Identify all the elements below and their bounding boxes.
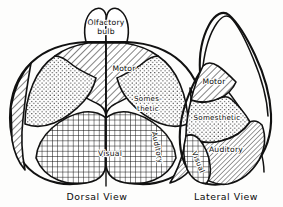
dorsal-label-somesthetic-line2: thetic	[137, 104, 159, 113]
lateral-label-motor: Motor	[202, 77, 226, 86]
lateral-label-auditory: Auditory	[209, 145, 243, 154]
brain-diagram-canvas: Olfactory bulb Motor Somes- thetic Visua…	[0, 0, 283, 207]
dorsal-label-olfactory-bulb-line1: Olfactory	[87, 18, 124, 27]
dorsal-label-olfactory-bulb-line2: bulb	[97, 27, 115, 36]
dorsal-label-visual: Visual	[98, 149, 122, 158]
lateral-label-somesthetic: Somesthetic	[194, 113, 241, 122]
dorsal-view-caption: Dorsal View	[67, 191, 128, 202]
dorsal-label-somesthetic-line1: Somes-	[134, 94, 162, 103]
brain-areas-figure: Olfactory bulb Motor Somes- thetic Visua…	[0, 0, 283, 207]
lateral-view-caption: Lateral View	[194, 191, 258, 202]
dorsal-label-motor: Motor	[112, 64, 136, 73]
